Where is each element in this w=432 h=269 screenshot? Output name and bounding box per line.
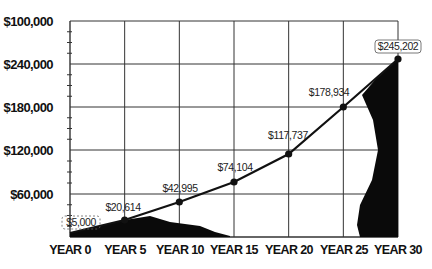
x-tick-label: YEAR 10: [156, 243, 205, 257]
data-point: [285, 150, 292, 157]
x-tick-label: YEAR 15: [210, 243, 259, 257]
data-point: [121, 216, 128, 223]
data-label: $178,934: [309, 86, 350, 98]
y-tick-label: $180,000: [4, 100, 54, 115]
data-label: $74,104: [217, 161, 253, 173]
right-shaded-area: [357, 59, 398, 237]
y-tick-label: $120,000: [4, 143, 54, 158]
data-label: $20,614: [105, 201, 141, 213]
data-point: [230, 178, 237, 185]
data-label: $245,202: [378, 40, 419, 52]
x-tick-label: YEAR 5: [104, 243, 146, 257]
x-axis-labels: YEAR 0 YEAR 5 YEAR 10 YEAR 15 YEAR 20 YE…: [49, 243, 422, 257]
data-label: $5,000: [66, 216, 96, 228]
data-label: $117,737: [268, 129, 308, 141]
y-tick-label: $60,000: [10, 187, 53, 202]
data-label: $42,995: [162, 182, 198, 194]
y-tick-label: $100,000: [4, 14, 54, 29]
data-point: [340, 103, 347, 110]
data-point: [394, 55, 401, 62]
x-tick-label: YEAR 30: [374, 243, 423, 257]
y-tick-label: $240,000: [4, 57, 54, 72]
x-tick-label: YEAR 20: [265, 243, 314, 257]
x-tick-label: YEAR 25: [320, 243, 369, 257]
growth-line-chart: $100,000 $240,000 $180,000 $120,000 $60,…: [0, 0, 432, 269]
y-axis-labels: $100,000 $240,000 $180,000 $120,000 $60,…: [4, 14, 54, 202]
data-point: [176, 198, 183, 205]
x-tick-label: YEAR 0: [49, 243, 91, 257]
